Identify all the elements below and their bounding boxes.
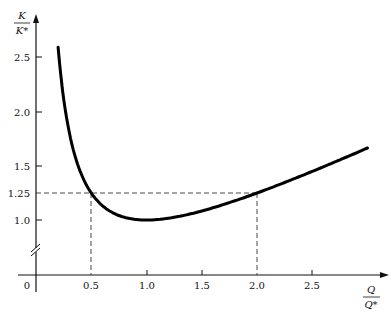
x-tick-label: 2.0 bbox=[249, 280, 265, 291]
chart: 2.5 2.0 1.5 1.25 1.0 0 0.5 1.0 1.5 2.0 2… bbox=[0, 0, 392, 316]
y-tick-label: 1.0 bbox=[14, 215, 30, 226]
x-label-numerator: Q bbox=[367, 284, 375, 295]
y-tick-label: 1.5 bbox=[14, 161, 30, 172]
x-ticks bbox=[147, 270, 312, 275]
y-axis-arrow-icon bbox=[33, 14, 39, 23]
y-tick-label: 2.0 bbox=[14, 107, 30, 118]
x-tick-label: 1.0 bbox=[139, 280, 155, 291]
origin-label: 0 bbox=[24, 280, 30, 291]
x-tick-label: 1.5 bbox=[194, 280, 210, 291]
y-tick-label: 1.25 bbox=[8, 188, 30, 199]
x-tick-label: 0.5 bbox=[83, 280, 99, 291]
x-tick-label: 2.5 bbox=[304, 280, 320, 291]
cost-curve bbox=[58, 47, 367, 220]
y-axis-label: K K* bbox=[14, 10, 30, 36]
x-axis-arrow-icon bbox=[380, 272, 389, 278]
y-ticks bbox=[36, 57, 42, 220]
y-tick-label: 2.5 bbox=[14, 52, 30, 63]
x-label-denominator: Q* bbox=[364, 299, 377, 310]
y-label-denominator: K* bbox=[15, 25, 28, 36]
y-label-numerator: K bbox=[17, 10, 26, 21]
x-axis-label: Q Q* bbox=[363, 284, 380, 310]
